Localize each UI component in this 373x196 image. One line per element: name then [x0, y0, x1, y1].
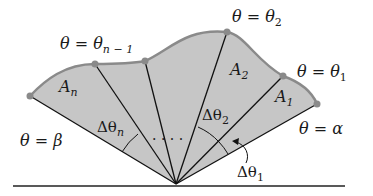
point-theta-2 — [224, 29, 231, 36]
label-alpha: θ = α — [299, 119, 343, 138]
label-theta-2: θ = θ2 — [232, 7, 282, 29]
point-beta — [27, 93, 34, 100]
shaded-region — [30, 32, 317, 184]
point-theta-n-minus-1 — [92, 61, 99, 68]
label-beta: θ = β — [20, 131, 62, 150]
point-theta-1 — [280, 73, 287, 80]
point-alpha — [314, 101, 321, 108]
label-theta-n-minus-1: θ = θn − 1 — [60, 34, 133, 56]
label-delta-theta-1: Δθ1 — [237, 163, 264, 184]
polar-area-diagram: θ = θ2 θ = θn − 1 θ = θ1 θ = α θ = β An … — [0, 0, 373, 196]
ellipsis: . . . . — [152, 127, 183, 143]
point-theta-n-minus-2 — [142, 58, 149, 65]
label-theta-1: θ = θ1 — [297, 62, 347, 84]
